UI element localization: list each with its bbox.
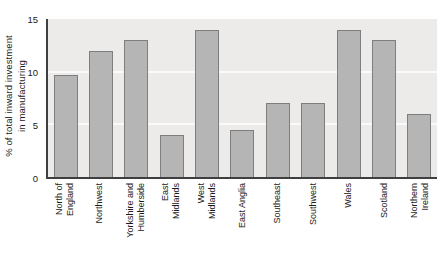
x-label-cell: West Midlands (188, 183, 224, 257)
y-tick-label: 15 (27, 14, 38, 25)
x-label-cell: Southwest (295, 183, 331, 257)
x-axis-label-northwest: Northwest (94, 183, 105, 257)
x-label-cell: East Midlands (153, 183, 189, 257)
bar-cell (154, 19, 189, 177)
x-axis-label-west-midlands: West Midlands (195, 183, 216, 257)
bar-west-midlands (195, 30, 219, 177)
x-axis-label-southeast: Southeast (272, 183, 283, 257)
bars-row (48, 19, 437, 177)
bar-southwest (301, 103, 325, 177)
bar-cell (402, 19, 437, 177)
bar-northern-ireland (407, 114, 431, 177)
bar-cell (296, 19, 331, 177)
x-axis-label-scotland: Scotland (378, 183, 389, 257)
x-label-cell: Wales (330, 183, 366, 257)
x-axis-label-northern-ireland: Northern Ireland (409, 183, 430, 257)
x-axis-labels: North of EnglandNorthwestYorkshire and H… (46, 183, 437, 257)
y-tick-label: 5 (33, 120, 38, 131)
bar-cell (48, 19, 83, 177)
y-axis-ticks: 051015 (0, 19, 46, 178)
bar-southeast (266, 103, 290, 177)
bar-scotland (372, 40, 396, 177)
bar-cell (366, 19, 401, 177)
bar-chart: % of total inward investment in manufact… (0, 0, 447, 258)
x-axis-label-southwest: Southwest (307, 183, 318, 257)
x-label-cell: North of England (46, 183, 82, 257)
bar-cell (189, 19, 224, 177)
x-label-cell: Southeast (259, 183, 295, 257)
x-label-cell: Northern Ireland (401, 183, 437, 257)
x-axis-label-wales: Wales (343, 183, 354, 257)
x-label-cell: East Anglia (224, 183, 260, 257)
bar-east-midlands (160, 135, 184, 177)
bar-yorkshire-and-humberside (124, 40, 148, 177)
bar-cell (119, 19, 154, 177)
bar-cell (331, 19, 366, 177)
bar-cell (83, 19, 118, 177)
x-axis-label-east-anglia: East Anglia (236, 183, 247, 257)
bar-cell (260, 19, 295, 177)
bar-wales (337, 30, 361, 177)
x-label-cell: Scotland (366, 183, 402, 257)
bar-east-anglia (230, 130, 254, 177)
x-label-cell: Yorkshire and Humberside (117, 183, 153, 257)
plot-area (46, 19, 437, 179)
bar-north-of-england (54, 75, 78, 177)
x-axis-label-north-of-england: North of England (53, 183, 74, 257)
y-tick-label: 10 (27, 67, 38, 78)
x-label-cell: Northwest (82, 183, 118, 257)
x-axis-label-east-midlands: East Midlands (160, 183, 181, 257)
x-axis-label-yorkshire-and-humberside: Yorkshire and Humberside (124, 183, 145, 257)
bar-cell (225, 19, 260, 177)
bar-northwest (89, 51, 113, 177)
y-tick-label: 0 (33, 173, 38, 184)
